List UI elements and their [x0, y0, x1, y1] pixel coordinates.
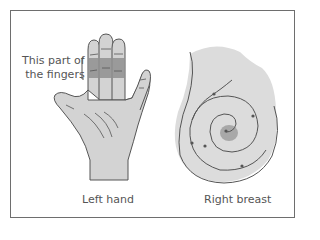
fingers-callout: This part of the fingers: [22, 54, 85, 82]
callout-line-2: the fingers: [22, 68, 85, 82]
nipple: [220, 125, 238, 141]
callout-line-1: This part of: [22, 54, 85, 68]
right-breast-illustration: [175, 46, 278, 183]
left-hand-caption: Left hand: [82, 193, 134, 206]
right-breast-caption: Right breast: [204, 193, 271, 206]
